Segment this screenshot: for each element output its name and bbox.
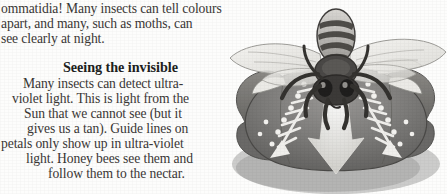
text-column: ommatidia! Many insects can tell colours… (0, 0, 240, 194)
section-heading: Seeing the invisible (63, 59, 178, 76)
intro-line: apart, and many, such as moths, can (1, 17, 193, 31)
section-body-line: light. Honey bees see them and (26, 152, 193, 166)
bee-on-flower-illustration (224, 8, 447, 194)
section-body-line: violet light. This is light from the (12, 92, 189, 106)
intro-line: see clearly at night. (1, 32, 105, 46)
book-page: ommatidia! Many insects can tell colours… (0, 0, 447, 194)
section-body-line: gives us a tan). Guide lines on (27, 122, 188, 136)
intro-line: ommatidia! Many insects can tell colours (1, 2, 222, 16)
section-body-line: petals only show up in ultra-violet (1, 137, 184, 151)
section-body-line: Sun that we cannot see (but it (24, 107, 182, 121)
section-body-line: follow them to the nectar. (48, 167, 185, 181)
section-body-line: Many insects can detect ultra- (23, 77, 183, 91)
